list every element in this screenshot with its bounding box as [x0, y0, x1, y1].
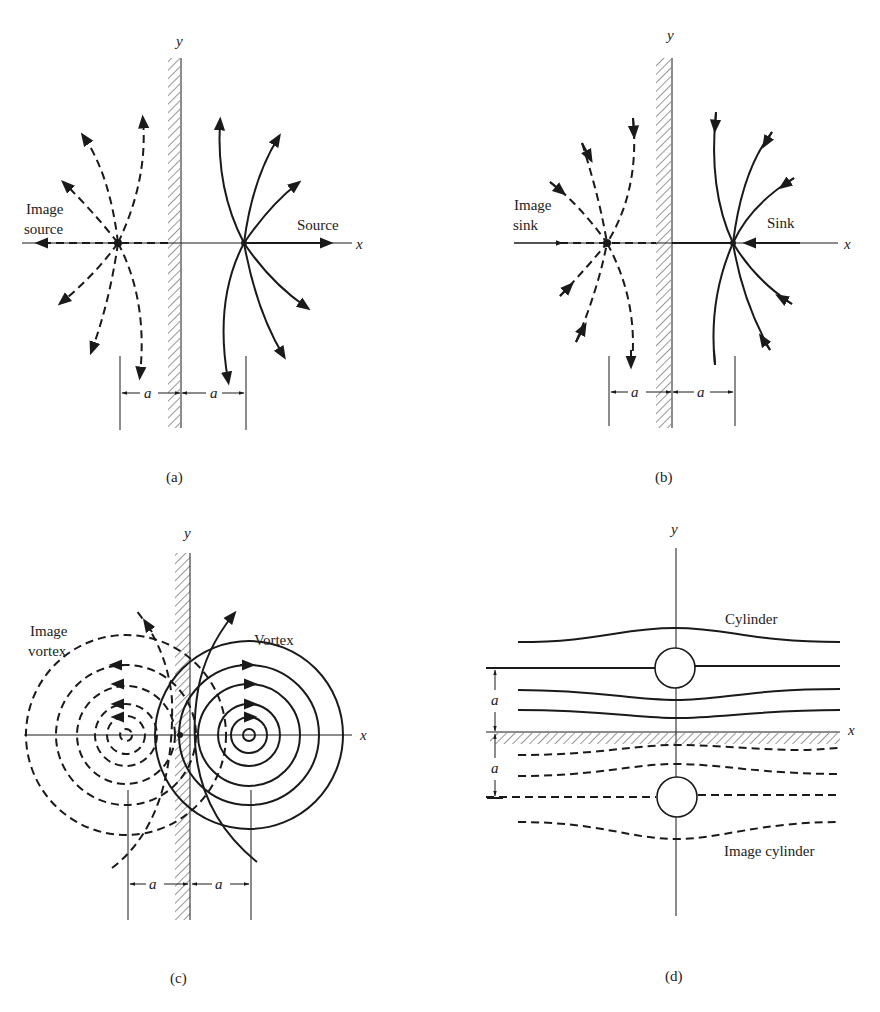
image-cylinder-label: Image cylinder [724, 843, 814, 859]
source-label: Source [297, 217, 339, 233]
dimension-label-lower: a [491, 760, 499, 776]
image-source-streamlines [40, 120, 168, 375]
cylinder-label: Cylinder [725, 611, 778, 627]
wall-hatching [490, 733, 840, 744]
figure-canvas: y x Image source Source [0, 0, 880, 1012]
source-point [241, 240, 247, 246]
image-cylinder-streamlines [486, 745, 840, 839]
dimension-label-left: a [149, 876, 157, 892]
caption-a: (a) [166, 469, 183, 486]
image-sink-point [603, 239, 611, 247]
cylinder-streamlines [486, 628, 840, 718]
dimension-a: a a [120, 356, 246, 430]
panel-c: y x [24, 525, 367, 987]
dimension-label-upper: a [491, 692, 499, 708]
y-axis-label: y [669, 521, 678, 537]
caption-c: (c) [170, 970, 187, 987]
cylinder [655, 648, 695, 688]
y-axis-label: y [665, 27, 674, 43]
panel-a: y x Image source Source [22, 33, 363, 486]
vortex-label: Vortex [254, 632, 294, 648]
panel-b: y x [513, 27, 851, 486]
image-vortex-label-2: vortex [28, 643, 67, 659]
image-source-label: Image [26, 201, 64, 217]
x-axis-label: x [355, 236, 363, 252]
source-streamlines [220, 122, 329, 380]
image-vortex-label: Image [30, 623, 68, 639]
sink-streamlines [672, 112, 800, 365]
image-source-label-2: source [24, 221, 63, 237]
y-axis-label: y [182, 525, 191, 541]
caption-b: (b) [655, 469, 673, 486]
dimension-label-right: a [697, 384, 705, 400]
caption-d: (d) [665, 968, 683, 985]
image-source-point [114, 239, 122, 247]
sink-point [730, 240, 736, 246]
image-sink-streamlines [514, 118, 656, 364]
dimension-label-left: a [144, 385, 152, 401]
y-axis-label: y [174, 33, 183, 49]
x-axis-label: x [359, 727, 367, 743]
dimension-label-right: a [215, 876, 223, 892]
x-axis-label: x [843, 236, 851, 252]
image-cylinder [657, 777, 697, 817]
dimension-label-right: a [210, 385, 218, 401]
sink-label: Sink [767, 215, 795, 231]
panel-d: y x Cylinder Image cylinder [486, 521, 855, 985]
image-sink-label: Image [514, 197, 552, 213]
dimension-label-left: a [631, 384, 639, 400]
image-sink-label-2: sink [513, 217, 539, 233]
x-axis-label: x [847, 722, 855, 738]
